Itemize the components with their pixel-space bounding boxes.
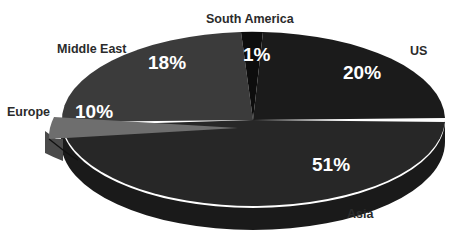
value-label-asia: 51% [312,154,350,176]
pie-chart-graphic [0,0,474,238]
value-label-middle-east: 18% [148,52,186,74]
value-label-south-america: 1% [243,44,270,66]
label-us: US [410,44,427,58]
label-europe: Europe [7,105,50,119]
value-label-europe: 10% [75,101,113,123]
pie-chart: South America Middle East Europe US Asia… [0,0,474,238]
label-south-america: South America [206,12,294,26]
label-asia: Asia [347,207,373,221]
value-label-us: 20% [343,62,381,84]
label-middle-east: Middle East [57,42,126,56]
